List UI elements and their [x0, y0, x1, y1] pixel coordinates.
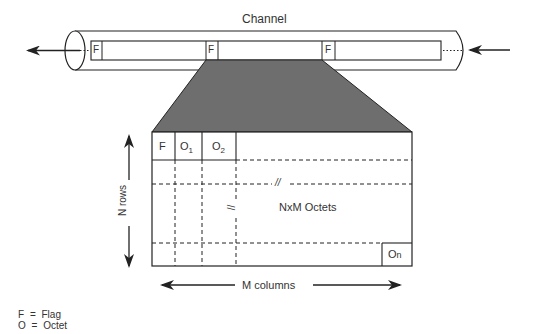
legend-meaning: Octet — [43, 320, 67, 331]
legend-item-flag: F = Flag — [18, 309, 67, 320]
header-cell-octet-2: O2 — [212, 140, 225, 155]
legend-equals: = — [32, 320, 38, 331]
break-mark-vertical: // — [225, 205, 236, 211]
octet-2-label: O — [212, 140, 221, 152]
header-cell-flag: F — [159, 140, 166, 152]
frame-flag-3: F — [325, 44, 331, 55]
columns-label: M columns — [242, 279, 295, 291]
legend: F = Flag O = Octet — [18, 309, 67, 331]
legend-symbol: O — [18, 320, 26, 331]
table-center-label: NxM Octets — [279, 201, 336, 213]
octet-1-label: O — [180, 140, 189, 152]
frame-flag-2: F — [208, 44, 214, 55]
legend-meaning: Flag — [42, 309, 61, 320]
last-cell-octet-n: On — [388, 248, 402, 260]
octet-1-subscript: 1 — [189, 146, 193, 155]
octet-2-subscript: 2 — [221, 146, 225, 155]
channel-title: Channel — [242, 12, 287, 26]
rows-label: N rows — [117, 185, 128, 216]
legend-item-octet: O = Octet — [18, 320, 67, 331]
zoom-projection — [152, 60, 412, 132]
octet-n-subscript: n — [397, 250, 402, 260]
break-mark-horizontal: // — [275, 177, 281, 188]
legend-symbol: F — [18, 309, 24, 320]
octet-n-label: O — [388, 248, 397, 260]
frame-flag-1: F — [93, 44, 99, 55]
header-cell-octet-1: O1 — [180, 140, 193, 155]
legend-equals: = — [30, 309, 36, 320]
